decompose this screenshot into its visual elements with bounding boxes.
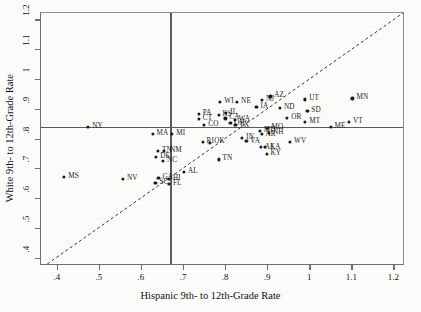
x-tick-label: .6 (138, 272, 145, 282)
data-point-label: NV (127, 175, 138, 182)
x-tick-mark (141, 265, 142, 270)
data-point-label: SD (311, 107, 320, 114)
data-point-label: OK (214, 138, 225, 145)
y-tick-mark (35, 258, 40, 259)
data-point-label: MI (176, 130, 185, 137)
data-point-label: KY (271, 150, 282, 157)
data-point-label: MA (157, 130, 169, 137)
scatter-plot-figure: White 9th- to 12th-Grade Rate MSNVNYMAMI… (0, 0, 421, 312)
y-tick-mark (35, 19, 40, 20)
y-tick-label: .4 (21, 245, 31, 252)
y-axis-title: White 9th- to 12th-Grade Rate (2, 12, 16, 265)
data-point-label: ND (284, 104, 295, 111)
x-tick-label: 1 (307, 272, 312, 282)
data-point-label: IA (260, 103, 268, 110)
data-point-label: FL (173, 180, 182, 187)
data-point-label: NE (241, 98, 251, 105)
data-point-label: MS (68, 173, 79, 180)
y-tick-label: .5 (21, 215, 31, 222)
data-point-label: NJ (266, 96, 274, 103)
data-point-label: TX (239, 122, 249, 129)
data-point-label: OR (291, 114, 301, 121)
x-tick-label: .9 (264, 272, 271, 282)
data-point-label: AZ (274, 92, 284, 99)
data-point-label: CO (208, 121, 218, 128)
y-tick-mark (35, 139, 40, 140)
x-tick-mark (267, 265, 268, 270)
y-tick-label: .9 (21, 96, 31, 103)
y-tick-label: .8 (21, 126, 31, 133)
y-tick-label: .7 (21, 156, 31, 163)
data-point-label: NC (167, 157, 177, 164)
x-tick-mark (309, 265, 310, 270)
x-tick-mark (393, 265, 394, 270)
y-tick-label: 1 (21, 68, 31, 73)
x-tick-label: 1.1 (346, 272, 357, 282)
data-point-label: WI (224, 98, 233, 105)
y-tick-mark (35, 168, 40, 169)
y-tick-mark (35, 198, 40, 199)
data-point-label: ME (335, 123, 346, 130)
y-tick-mark (35, 49, 40, 50)
plot-area: MSNVNYMAMITNNMDENCGAHISCFLALPACTCORIOKKS… (40, 12, 404, 265)
y-tick-mark (35, 228, 40, 229)
data-point-label: VA (250, 138, 260, 145)
x-axis-title: Hispanic 9th- to 12th-Grade Rate (0, 290, 421, 301)
x-tick-label: .8 (222, 272, 229, 282)
x-tick-mark (351, 265, 352, 270)
y-tick-label: 1.1 (21, 35, 31, 46)
x-tick-label: 1.2 (388, 272, 399, 282)
x-tick-mark (57, 265, 58, 270)
y-tick-label: .6 (21, 186, 31, 193)
data-point-label: WV (294, 138, 306, 145)
y-tick-label: 1.2 (21, 5, 31, 16)
data-point-label: NH (273, 129, 284, 136)
x-tick-label: .4 (53, 272, 60, 282)
x-tick-mark (183, 265, 184, 270)
data-point-label: MN (356, 94, 368, 101)
y-tick-mark (35, 79, 40, 80)
data-point-label: UT (309, 95, 319, 102)
data-point-label: TN (223, 155, 233, 162)
x-tick-label: .5 (96, 272, 103, 282)
y-tick-mark (35, 109, 40, 110)
x-tick-label: .7 (180, 272, 187, 282)
x-tick-mark (99, 265, 100, 270)
data-point-label: MT (309, 118, 320, 125)
data-point-label: NM (170, 147, 182, 154)
data-point-label: VT (353, 118, 363, 125)
data-point-label: NY (92, 123, 103, 130)
data-point-label: AL (188, 168, 198, 175)
x-tick-mark (225, 265, 226, 270)
